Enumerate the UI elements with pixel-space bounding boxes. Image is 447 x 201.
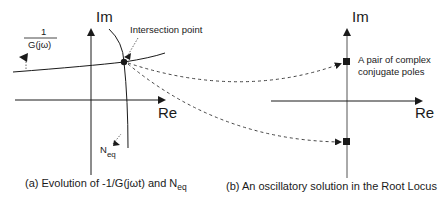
neq-label: Neq xyxy=(100,144,116,159)
pole-upper-marker xyxy=(343,58,350,65)
intersection-leader xyxy=(128,38,138,55)
intersection-label: Intersection point xyxy=(130,24,203,35)
neq-direction-arrow-icon xyxy=(113,140,120,146)
left-im-label: Im xyxy=(96,8,113,25)
caption-left: (a) Evolution of -1/G(jωt) and Neq xyxy=(25,177,187,192)
right-panel: Im Re A pair of complex conjugate poles … xyxy=(226,8,437,192)
diagram-canvas: Im Re 1 G(jω) Intersection point Neq (a)… xyxy=(0,0,447,201)
right-re-label: Re xyxy=(415,104,434,121)
pole-lower-marker xyxy=(343,138,350,145)
poles-label-line1: A pair of complex xyxy=(358,54,431,65)
caption-right: (b) An oscillatory solution in the Root … xyxy=(226,180,437,192)
fraction-numerator: 1 xyxy=(41,26,46,37)
left-re-label: Re xyxy=(158,104,177,121)
inverse-g-curve xyxy=(13,53,165,72)
mapping-arrow-upper xyxy=(128,63,340,82)
right-im-label: Im xyxy=(352,8,369,25)
intersection-point-marker xyxy=(121,59,127,65)
mapping-arrows xyxy=(128,63,340,142)
left-panel: Im Re 1 G(jω) Intersection point Neq (a)… xyxy=(13,8,203,192)
neq-curve xyxy=(109,29,128,148)
inverse-g-direction-arrow-icon xyxy=(19,53,28,62)
poles-label-line2: conjugate poles xyxy=(358,66,425,77)
fraction-denominator: G(jω) xyxy=(28,39,51,50)
intersection-arrow-icon xyxy=(124,53,131,60)
mapping-arrow-lower xyxy=(128,64,340,142)
